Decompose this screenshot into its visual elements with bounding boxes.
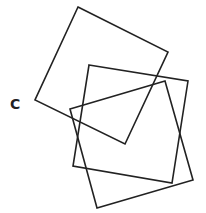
square-outline xyxy=(73,65,188,183)
square-outline xyxy=(70,81,193,208)
diagram-canvas: C xyxy=(0,0,206,213)
rotated-squares-figure xyxy=(0,0,206,213)
square-outline xyxy=(35,7,168,144)
